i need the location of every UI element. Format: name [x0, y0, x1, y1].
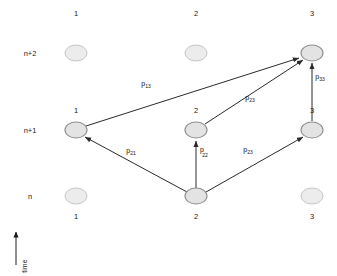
column-header-group: 1 2 3 [74, 9, 314, 18]
edge-p23-upper [205, 60, 303, 124]
edge-label-p22-sub: 22 [202, 152, 208, 158]
edge-label-p23-lower-sub: 23 [247, 149, 253, 155]
edge-label-group: p13 p23 p33 p21 p22 p23 [126, 73, 325, 158]
trellis-diagram-figure: 1 2 3 n+2 n+1 n [0, 0, 337, 276]
node-n2-c3[interactable] [301, 45, 323, 61]
node-n0-c2[interactable] [185, 188, 207, 204]
node-label-n1-c1: 1 [74, 106, 78, 115]
edge-label-p13-sub: 13 [145, 83, 151, 89]
edge-p21 [85, 137, 187, 192]
column-header-2: 2 [194, 9, 198, 18]
edge-label-p21: p21 [126, 147, 136, 156]
column-header-3: 3 [310, 9, 314, 18]
edge-label-p23: p23 [245, 94, 255, 103]
node-n1-c3[interactable] [301, 122, 323, 138]
node-label-n0-c2: 2 [194, 212, 198, 221]
column-header-1: 1 [74, 9, 78, 18]
edge-label-p22: p22 [200, 146, 208, 158]
trellis-canvas: 1 2 3 n+2 n+1 n [0, 0, 337, 276]
edge-p23-lower [206, 137, 303, 192]
node-n1-c1[interactable] [65, 122, 87, 138]
edge-p13 [86, 58, 299, 126]
edge-label-p33: p33 [315, 73, 325, 82]
node-n0-c3[interactable] [301, 188, 323, 204]
node-group [65, 45, 323, 204]
node-n2-c2[interactable] [185, 45, 207, 61]
node-n2-c1[interactable] [65, 45, 87, 61]
edge-label-p23-sub: 23 [249, 97, 255, 103]
edge-label-p33-sub: 33 [319, 76, 325, 82]
node-label-n1-c2: 2 [194, 106, 198, 115]
edge-label-p13: p13 [141, 80, 151, 89]
row-label-group: n+2 n+1 n [24, 49, 37, 201]
row-label-n-plus-1: n+1 [24, 126, 37, 135]
node-label-n0-c3: 3 [310, 212, 314, 221]
time-axis: time [16, 232, 28, 273]
row-label-n-plus-2: n+2 [24, 49, 37, 58]
edge-label-p21-sub: 21 [130, 150, 136, 156]
row-label-n: n [28, 192, 32, 201]
node-n0-c1[interactable] [65, 188, 87, 204]
node-label-n0-c1: 1 [74, 212, 78, 221]
node-label-n1-c3: 3 [310, 106, 314, 115]
edge-label-p23-lower: p23 [243, 146, 253, 155]
time-axis-label: time [21, 259, 28, 272]
node-n1-c2[interactable] [185, 122, 207, 138]
